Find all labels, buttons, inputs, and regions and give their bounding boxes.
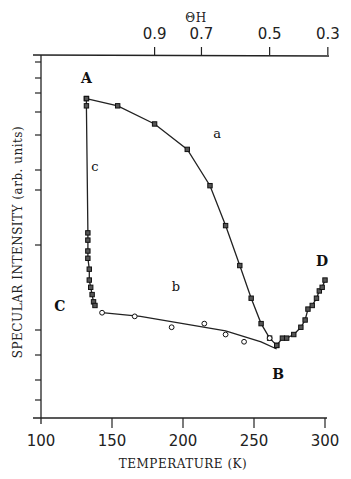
square-marker [310,303,314,307]
square-marker [93,303,97,307]
square-marker [89,285,93,289]
square-marker [299,325,303,329]
circle-marker [100,310,105,315]
square-marker [87,278,91,282]
square-marker [86,256,90,260]
square-marker [275,343,279,347]
curves [86,99,325,349]
top-tick-label: 0.7 [190,25,214,43]
square-marker [249,296,253,300]
labels: 1001502002503000.90.70.50.3ABCDabc [27,25,340,450]
square-marker [90,292,94,296]
x-axis-title: TEMPERATURE (K) [119,457,247,471]
circle-marker [267,336,272,341]
square-marker [259,321,263,325]
curve-a [86,99,276,346]
square-marker [280,336,284,340]
curve-b-fit-line [102,313,277,349]
square-marker [84,96,88,100]
point-label-B: B [272,366,284,382]
circle-marker [242,339,247,344]
top-tick-label: 0.3 [316,25,340,43]
circle-marker [202,321,207,326]
square-marker [284,336,288,340]
square-marker [303,318,307,322]
point-label-C: C [54,298,65,314]
square-marker [223,223,227,227]
circle-marker [132,314,137,319]
x-tick-label: 150 [98,432,127,450]
curve-label-c: c [91,159,98,174]
square-marker [306,307,310,311]
circle-marker [169,325,174,330]
square-marker [292,332,296,336]
square-marker [320,285,324,289]
point-label-A: A [80,70,93,86]
square-marker [323,278,327,282]
top-axis [33,55,329,56]
x-tick-label: 300 [311,432,340,450]
curve-label-a: a [213,126,221,141]
x-tick-label: 100 [27,432,56,450]
square-marker [86,249,90,253]
square-marker [86,231,90,235]
square-marker [152,122,156,126]
square-marker [208,183,212,187]
point-label-D: D [316,253,328,269]
square-marker [238,263,242,267]
y-axis-title: SPECULAR INTENSITY (arb. units) [11,126,25,358]
data-markers [84,96,327,347]
square-marker [87,267,91,271]
square-marker [115,104,119,108]
square-marker [86,238,90,242]
square-marker [314,296,318,300]
top-tick-label: 0.5 [258,25,282,43]
top-tick-label: 0.9 [143,25,167,43]
x-tick-label: 200 [169,432,198,450]
square-marker [185,147,189,151]
x-tick-label: 250 [240,432,269,450]
top-axis-title: ΘH [185,11,206,25]
square-marker [84,104,88,108]
curve-c [86,99,95,306]
axes [33,55,329,424]
phase-transition-chart: 1001502002503000.90.70.50.3ABCDabc ΘH TE… [0,0,351,479]
curve-label-b: b [172,279,180,294]
circle-marker [223,332,228,337]
